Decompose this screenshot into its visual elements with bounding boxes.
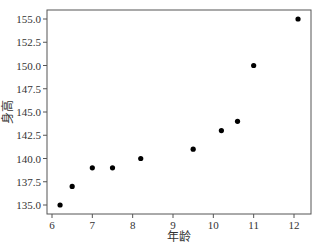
data-point xyxy=(219,128,224,133)
x-tick-label: 11 xyxy=(248,219,259,231)
y-tick-label: 150.0 xyxy=(16,60,41,72)
x-axis-label: 年龄 xyxy=(167,230,191,244)
data-point xyxy=(295,16,300,21)
y-tick-label: 142.5 xyxy=(16,129,41,141)
x-tick-label: 7 xyxy=(90,219,96,231)
y-tick-label: 152.5 xyxy=(16,36,41,48)
x-tick-label: 10 xyxy=(208,219,220,231)
data-point xyxy=(138,156,143,161)
y-tick-label: 147.5 xyxy=(16,83,41,95)
data-point xyxy=(251,63,256,68)
y-tick-label: 137.5 xyxy=(16,176,41,188)
y-tick-label: 155.0 xyxy=(16,13,41,25)
data-point xyxy=(70,184,75,189)
data-point xyxy=(90,165,95,170)
x-tick-label: 12 xyxy=(289,219,300,231)
data-point xyxy=(57,202,62,207)
y-tick-label: 140.0 xyxy=(16,153,41,165)
plot-area xyxy=(47,10,311,214)
y-axis-label: 身高 xyxy=(0,100,15,124)
y-tick-label: 145.0 xyxy=(16,106,41,118)
data-point xyxy=(110,165,115,170)
x-axis-ticks: 6789101112 xyxy=(49,214,299,231)
y-axis-ticks: 135.0137.5140.0142.5145.0147.5150.0152.5… xyxy=(16,13,47,211)
data-point xyxy=(235,119,240,124)
x-tick-label: 6 xyxy=(49,219,55,231)
scatter-chart: 135.0137.5140.0142.5145.0147.5150.0152.5… xyxy=(0,0,318,245)
data-point xyxy=(191,147,196,152)
y-tick-label: 135.0 xyxy=(16,199,41,211)
x-tick-label: 8 xyxy=(130,219,136,231)
